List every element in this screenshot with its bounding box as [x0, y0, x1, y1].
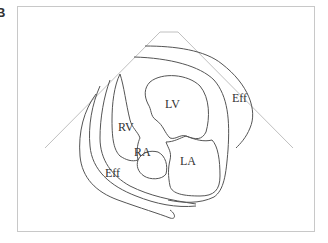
label-ra: RA [134, 145, 151, 159]
label-lv: LV [165, 97, 180, 111]
label-rv: RV [118, 120, 134, 134]
label-eff-left: Eff [105, 166, 120, 180]
heart-diagram: LV Eff RV RA LA Eff [0, 0, 328, 243]
label-eff-right: Eff [232, 91, 247, 105]
pericardium-left [80, 94, 175, 218]
ultrasound-sector [45, 32, 293, 148]
label-la: LA [180, 154, 196, 168]
epicardium-top [134, 57, 229, 202]
